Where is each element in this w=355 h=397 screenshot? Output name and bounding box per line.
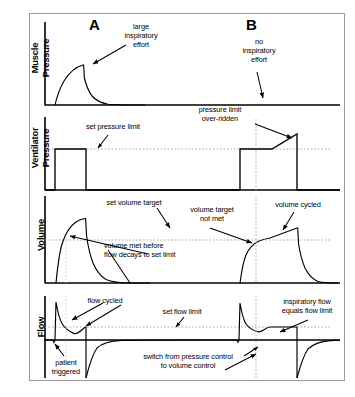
annotation-large-inspiratory-effort: largeinspiratoryeffort (108, 22, 174, 50)
arrow-patient-triggered (55, 344, 64, 356)
ventilator-waveform-figure: MusclePressure VentilatorPressure Volume… (0, 0, 355, 397)
arrow-set-pressure-limit (98, 135, 108, 148)
arrow-set-volume-target (157, 208, 170, 228)
annotation-volume-met-before-flow-decays: volume met beforeflow decays to set limi… (104, 241, 228, 259)
annotation-switch-pressure-to-volume: switch from pressure controlto volume co… (127, 352, 249, 370)
annotation-set-flow-limit: set flow limit (146, 307, 218, 316)
annotation-patient-triggered: patienttriggered (42, 358, 90, 376)
arrow-volume-cycled (283, 212, 294, 230)
muscle-pressure-curve-a (55, 65, 145, 105)
ventilator-pressure-curve-a (45, 149, 240, 190)
annotation-volume-cycled: volume cycled (264, 200, 332, 209)
arrow-inspiratory-flow-equals-limit (280, 320, 308, 332)
annotation-volume-target-not-met: volume targetnot met (178, 205, 246, 223)
annotation-no-inspiratory-effort: noinspiratoryeffort (228, 37, 290, 65)
annotation-set-volume-target: set volume target (88, 198, 180, 207)
arrow-set-flow-limit (176, 317, 184, 327)
annotation-inspiratory-flow-equals-flow-limit: inspiratory flowequals flow limit (268, 297, 346, 315)
arrow-flow-cycled-left (72, 303, 103, 320)
arrow-flow-cycled-right (86, 305, 121, 326)
annotation-pressure-limit-over-ridden: pressure limitover-ridden (182, 105, 258, 123)
flow-curve-b-expiratory (297, 340, 340, 378)
annotation-flow-cycled: flow cycled (76, 296, 134, 305)
ventilator-pressure-curve-b (240, 134, 340, 190)
volume-curve-b (240, 228, 338, 283)
panel-muscle-pressure (45, 22, 340, 106)
annotation-set-pressure-limit: set pressure limit (70, 122, 156, 131)
arrow-pressure-limit-over-ridden (255, 124, 292, 138)
arrow-no-inspiratory-effort (257, 72, 263, 98)
